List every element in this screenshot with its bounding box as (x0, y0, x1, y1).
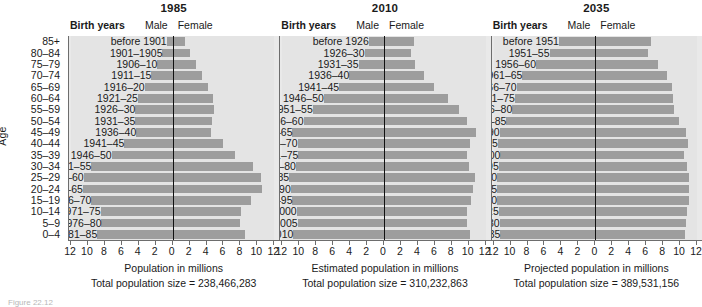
x-tick-label: 0 (380, 246, 386, 257)
female-bar (595, 37, 651, 46)
x-tick-label: 10 (504, 246, 516, 257)
birth-year-label: 1991–95 (280, 195, 295, 206)
female-bar (384, 173, 475, 182)
pyramid-row: 1956–60 (492, 59, 702, 70)
birth-year-label: 1996–2000 (492, 149, 504, 160)
female-bar (173, 185, 262, 194)
birth-year-label: 2011–15 (492, 183, 500, 194)
male-bar (97, 230, 172, 239)
male-bar (522, 71, 595, 80)
male-bar (497, 173, 595, 182)
pyramid-row: 1956–60 (69, 172, 279, 183)
pyramid-row: 1976–80 (280, 161, 490, 172)
female-bar (384, 230, 470, 239)
female-bar (595, 230, 685, 239)
pyramid-row: 2026–30 (492, 217, 702, 228)
x-tick-label: 8 (237, 246, 243, 257)
pyramid-row: 1986–90 (492, 127, 702, 138)
birth-year-label: before 1926 (280, 36, 371, 47)
male-bar (289, 173, 384, 182)
total-population-label: Total population size = 310,232,863 (279, 277, 490, 289)
plot-area: before 19511951–551956–601961–651966–701… (491, 36, 702, 240)
pyramid-row: 2031–35 (492, 229, 702, 240)
x-tick-label: 6 (642, 246, 648, 257)
x-tick-label: 10 (673, 246, 685, 257)
x-tick-label: 8 (101, 246, 107, 257)
male-bar (515, 94, 595, 103)
female-bar (595, 105, 674, 114)
x-tick-label: 12 (275, 246, 287, 257)
female-legend-label: Female (600, 19, 635, 31)
birth-year-label: 1921–25 (69, 93, 141, 104)
birth-year-label: 1966–70 (280, 138, 300, 149)
birth-year-label: 1941–45 (280, 81, 342, 92)
age-group-label: 0–4 (0, 229, 62, 240)
male-bar (297, 207, 384, 216)
pyramid-row: 1981–85 (492, 115, 702, 126)
male-bar (512, 105, 595, 114)
zero-center-line (384, 36, 385, 240)
birth-year-label: 2031–35 (492, 229, 504, 240)
x-axis-label: Estimated population in millions (279, 262, 490, 274)
birth-year-label: 1961–65 (280, 127, 295, 138)
age-group-label: 65–69 (0, 81, 62, 92)
pyramid-row: 1966–70 (69, 195, 279, 206)
age-group-label: 35–39 (0, 149, 62, 160)
male-bar (112, 151, 173, 160)
birth-year-label: 1966–70 (69, 195, 94, 206)
birth-year-label: 1951–55 (69, 161, 94, 172)
male-bar (151, 71, 172, 80)
pyramid-row: 1971–75 (280, 149, 490, 160)
female-bar (173, 128, 211, 137)
birth-year-label: 1911–15 (69, 70, 154, 81)
pyramid-row: 1946–50 (69, 149, 279, 160)
x-tick-label: 10 (251, 246, 263, 257)
female-bar (595, 117, 679, 126)
x-tick-label: 2 (608, 246, 614, 257)
birth-year-label: 1966–70 (492, 81, 520, 92)
pyramid-row: before 1951 (492, 36, 702, 47)
birth-year-label: before 1951 (492, 36, 562, 47)
male-legend-label: Male (337, 19, 379, 31)
female-bar (173, 207, 242, 216)
birth-year-label: 1976–80 (69, 217, 104, 228)
zero-center-line (595, 36, 596, 240)
x-tick-label: 6 (431, 246, 437, 257)
male-bar (304, 117, 384, 126)
pyramid-row: 1926–30 (280, 47, 490, 58)
male-bar (339, 83, 384, 92)
birth-year-label: 2006–10 (492, 172, 500, 183)
female-bar (384, 71, 424, 80)
birth-year-label: 1986–90 (492, 127, 503, 138)
pyramid-row: 1986–90 (280, 183, 490, 194)
birth-year-label: 1936–40 (280, 70, 352, 81)
x-tick-label: 6 (541, 246, 547, 257)
male-bar (296, 162, 384, 171)
bar-rows: before 19261926–301931–351936–401941–451… (280, 36, 490, 240)
pyramid-row: 2006–10 (492, 172, 702, 183)
x-tick-label: 2 (363, 246, 369, 257)
x-tick-label: 2 (186, 246, 192, 257)
pyramid-row: 1971–75 (69, 206, 279, 217)
female-bar (173, 49, 191, 58)
birth-year-label: 1941–45 (69, 138, 127, 149)
male-bar (145, 83, 173, 92)
female-bar (595, 185, 688, 194)
x-tick-label: 4 (135, 246, 141, 257)
male-bar (298, 139, 384, 148)
x-tick-label: 10 (462, 246, 474, 257)
pyramid-row: before 1901 (69, 36, 279, 47)
male-bar (500, 128, 596, 137)
pyramid-row: 1951–55 (280, 104, 490, 115)
age-group-label: 75–79 (0, 59, 62, 70)
male-legend-label: Male (548, 19, 590, 31)
birth-year-label: 2026–30 (492, 217, 503, 228)
female-bar (595, 219, 686, 228)
x-tick-labels: 12108642024681012 (491, 246, 702, 260)
female-bar (384, 162, 469, 171)
total-population-label: Total population size = 389,531,156 (491, 277, 702, 289)
male-bar (138, 94, 173, 103)
birth-year-label: 1926–30 (69, 104, 138, 115)
pyramid-row: 1996–2000 (280, 206, 490, 217)
x-tick-label: 10 (292, 246, 304, 257)
